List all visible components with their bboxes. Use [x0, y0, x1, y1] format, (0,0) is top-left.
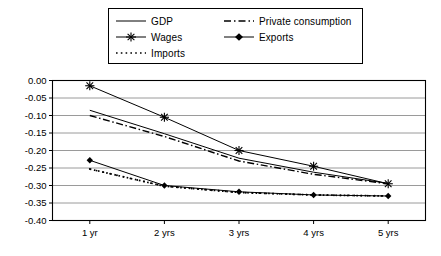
data-point-dot: [116, 174, 118, 176]
data-point-dot: [258, 192, 260, 194]
data-point-dot: [170, 186, 172, 188]
legend-swatch-line-solid-diamond-icon: [223, 31, 255, 43]
data-point-dot: [157, 184, 159, 186]
data-point-dot: [211, 189, 213, 191]
data-point-dot: [163, 185, 165, 187]
data-point-dot: [299, 194, 301, 196]
legend-label-gdp: GDP: [151, 16, 173, 27]
data-point-dot: [380, 195, 382, 197]
data-point-dot: [265, 192, 267, 194]
data-point-dot: [374, 195, 376, 197]
data-point-dot: [319, 194, 321, 196]
legend-item-imports: Imports: [115, 47, 223, 59]
x-axis-tick-label: 4 yrs: [303, 227, 324, 238]
data-point-marker-diamond: [87, 157, 93, 163]
legend-label-imports: Imports: [151, 48, 185, 59]
data-point-dot: [306, 194, 308, 196]
data-point-dot: [197, 188, 199, 190]
series-line: [90, 86, 388, 184]
x-axis-tick-label: 3 yrs: [229, 227, 250, 238]
series-wages: [85, 81, 393, 188]
data-point-dot: [136, 179, 138, 181]
legend-label-private-consumption: Private consumption: [259, 16, 352, 27]
y-axis-tick-label: -0.15: [25, 127, 47, 138]
x-axis-tick-label: 2 yrs: [154, 227, 175, 238]
y-axis-tick-label: -0.05: [25, 92, 47, 103]
legend-label-wages: Wages: [151, 32, 182, 43]
data-point-dot: [313, 194, 315, 196]
legend-item-wages: Wages: [115, 31, 223, 43]
data-point-dot: [333, 194, 335, 196]
data-point-dot: [286, 193, 288, 195]
legend-swatch-line-solid-star-icon: [115, 31, 147, 43]
legend-item-private-consumption: Private consumption: [223, 15, 358, 27]
data-point-dot: [292, 193, 294, 195]
data-point-dot: [130, 177, 132, 179]
y-axis-tick-label: -0.25: [25, 162, 47, 173]
data-point-dot: [340, 194, 342, 196]
data-point-dot: [326, 194, 328, 196]
line-chart: GDP Private consumption: [0, 0, 441, 256]
y-axis-tick-label: -0.35: [25, 197, 47, 208]
legend-item-gdp: GDP: [115, 15, 223, 27]
legend-item-exports: Exports: [223, 31, 358, 43]
data-point-dot: [272, 193, 274, 195]
data-point-dot: [191, 188, 193, 190]
data-point-dot: [102, 171, 104, 173]
data-point-dot: [150, 182, 152, 184]
legend-swatch-line-dotted-icon: [115, 47, 147, 59]
data-point-dot: [245, 192, 247, 194]
series-imports-dots: [89, 168, 389, 197]
y-axis-tick-label: -0.10: [25, 110, 47, 121]
data-point-dot: [231, 191, 233, 193]
y-axis-tick-label: -0.40: [25, 215, 47, 226]
x-axis-tick-label: 1 yr: [82, 227, 98, 238]
data-point-dot: [89, 168, 91, 170]
y-axis-tick-label: -0.30: [25, 180, 47, 191]
data-point-dot: [238, 192, 240, 194]
data-point-dot: [96, 170, 98, 172]
data-point-dot: [252, 192, 254, 194]
data-point-dot: [387, 195, 389, 197]
data-point-dot: [184, 187, 186, 189]
data-point-dot: [367, 195, 369, 197]
data-point-dot: [360, 195, 362, 197]
x-axis-tick-label: 5 yrs: [378, 227, 399, 238]
data-point-dot: [177, 186, 179, 188]
legend-swatch-line-dash-dot-icon: [223, 15, 255, 27]
data-point-dot: [224, 190, 226, 192]
chart-legend: GDP Private consumption: [108, 8, 363, 64]
data-point-dot: [279, 193, 281, 195]
legend-label-exports: Exports: [259, 32, 294, 43]
data-point-dot: [109, 173, 111, 175]
y-axis-tick-label: -0.20: [25, 145, 47, 156]
data-point-dot: [204, 189, 206, 191]
data-point-dot: [347, 194, 349, 196]
legend-swatch-line-solid-icon: [115, 15, 147, 27]
data-point-dot: [353, 195, 355, 197]
data-point-dot: [123, 176, 125, 178]
data-point-dot: [218, 190, 220, 192]
data-point-dot: [143, 181, 145, 183]
y-axis-tick-label: 0.00: [28, 75, 47, 86]
